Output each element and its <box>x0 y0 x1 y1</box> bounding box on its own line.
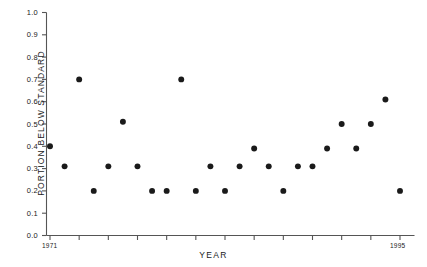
data-point-group <box>47 76 403 193</box>
x-tick-marks <box>50 236 400 241</box>
plot-canvas <box>0 0 427 267</box>
data-point <box>368 121 374 127</box>
data-point <box>310 163 316 169</box>
data-point <box>237 163 243 169</box>
data-point <box>382 97 388 103</box>
y-tick-label: 0.5 <box>12 120 38 129</box>
data-point <box>120 119 126 125</box>
x-axis-title: YEAR <box>0 250 427 260</box>
y-tick-label: 1.0 <box>12 8 38 17</box>
y-tick-label: 0.0 <box>12 231 38 240</box>
data-point <box>62 163 68 169</box>
data-point <box>251 146 257 152</box>
y-tick-label: 0.3 <box>12 164 38 173</box>
data-point <box>105 163 111 169</box>
data-point <box>193 188 199 194</box>
data-point <box>47 143 53 149</box>
data-point <box>164 188 170 194</box>
data-point <box>91 188 97 194</box>
y-tick-label: 0.6 <box>12 97 38 106</box>
data-point <box>178 76 184 82</box>
data-point <box>266 163 272 169</box>
axis-lines <box>47 13 415 236</box>
data-point <box>135 163 141 169</box>
scatter-plot-figure: 1.00.90.80.70.60.50.40.30.20.10.0 197119… <box>0 0 427 267</box>
y-tick-label: 0.1 <box>12 209 38 218</box>
y-tick-label: 0.4 <box>12 142 38 151</box>
data-point <box>353 146 359 152</box>
x-tick-label: 1971 <box>42 242 57 249</box>
data-point <box>149 188 155 194</box>
y-axis-title: PORTION BELOW STANDARD <box>36 33 46 213</box>
data-point <box>295 163 301 169</box>
data-point <box>280 188 286 194</box>
y-tick-label: 0.9 <box>12 30 38 39</box>
y-tick-label: 0.2 <box>12 186 38 195</box>
data-point <box>76 76 82 82</box>
x-tick-label: 1995 <box>390 242 405 249</box>
data-point <box>324 146 330 152</box>
y-tick-label: 0.8 <box>12 53 38 62</box>
y-tick-label: 0.7 <box>12 75 38 84</box>
data-point <box>222 188 228 194</box>
data-point <box>339 121 345 127</box>
data-point <box>397 188 403 194</box>
data-point <box>207 163 213 169</box>
